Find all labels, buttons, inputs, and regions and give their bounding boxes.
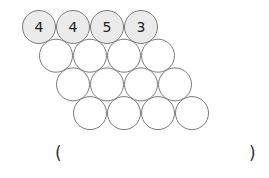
circle-number: 3	[137, 19, 146, 35]
empty-circle[interactable]	[74, 97, 107, 130]
circle-number: 5	[103, 19, 112, 35]
empty-circle[interactable]	[91, 68, 124, 101]
empty-circle[interactable]	[108, 39, 141, 72]
empty-circle[interactable]	[74, 39, 107, 72]
number-circle: 4	[57, 11, 90, 44]
answer-close-paren: )	[249, 145, 256, 162]
empty-circle[interactable]	[176, 97, 209, 130]
empty-circle[interactable]	[57, 68, 90, 101]
empty-circle[interactable]	[108, 97, 141, 130]
circle-number: 4	[69, 19, 78, 35]
number-circle: 3	[125, 11, 158, 44]
number-circle: 4	[23, 11, 56, 44]
circle-number: 4	[35, 19, 44, 35]
answer-blank[interactable]	[70, 145, 245, 165]
number-circle: 5	[91, 11, 124, 44]
empty-circle[interactable]	[125, 68, 158, 101]
empty-circle[interactable]	[159, 68, 192, 101]
empty-circle[interactable]	[142, 39, 175, 72]
empty-circle[interactable]	[142, 97, 175, 130]
answer-open-paren: (	[55, 145, 62, 162]
empty-circle[interactable]	[40, 39, 73, 72]
